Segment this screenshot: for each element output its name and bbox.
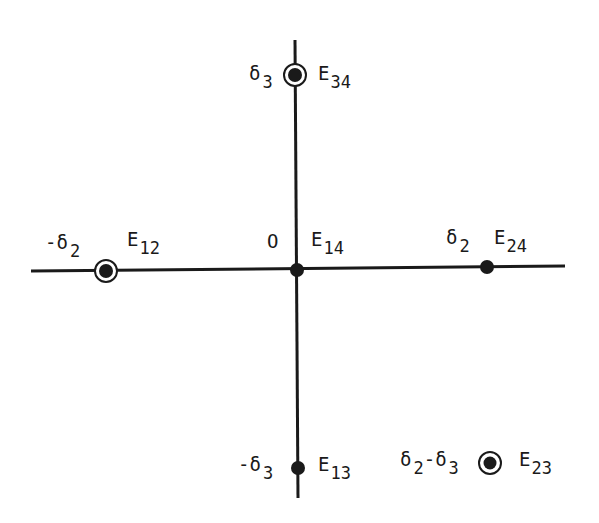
label-delta3-top: δ3 <box>249 62 273 92</box>
label-e14: E14 <box>311 228 344 258</box>
point-e34 <box>284 64 306 86</box>
point-e14 <box>290 263 304 277</box>
point-e13 <box>291 461 305 475</box>
label-origin: O <box>267 230 278 252</box>
label-e23: E23 <box>519 448 552 478</box>
point-e23 <box>479 452 501 474</box>
label-neg-delta2: -δ2 <box>45 231 80 261</box>
label-delta2-minus-delta3: δ2-δ3 <box>400 448 459 478</box>
label-delta2: δ2 <box>446 226 470 256</box>
label-e13: E13 <box>318 453 351 483</box>
label-e12: E12 <box>127 228 160 258</box>
label-e34: E34 <box>318 62 351 92</box>
energy-level-diagram: δ3 E34 -δ2 E12 O E14 δ2 E24 -δ3 E13 δ2-δ… <box>0 0 599 523</box>
label-neg-delta3: -δ3 <box>238 453 273 483</box>
point-e12 <box>95 260 117 282</box>
point-e24 <box>480 260 494 274</box>
label-e24: E24 <box>494 226 527 256</box>
